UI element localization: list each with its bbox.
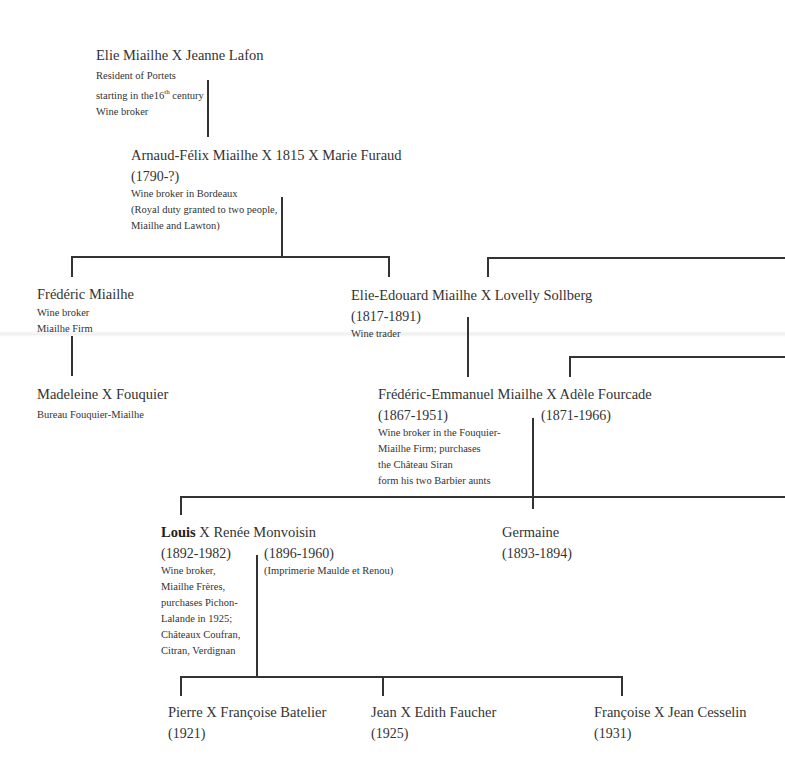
node-dates: (1931) [594,725,747,743]
node-elie-miailhe: Elie Miailhe X Jeanne Lafon Resident of … [96,46,264,120]
node-dates: (1817-1891) [351,308,592,326]
node-name: Pierre X Françoise Batelier [168,703,326,721]
connector-drop [382,676,384,696]
node-detail: purchases Pichon- [161,595,316,611]
connector-vertical [281,197,283,257]
spouse-renee-details: (1896-1960) (Imprimerie Maulde et Renou) [264,545,393,579]
connector-horizontal-offpage [569,356,785,358]
node-dates: (1896-1960) [264,545,393,563]
century-number: 16 [154,90,165,101]
connector-vertical [256,555,258,677]
node-name: Jean X Edith Faucher [371,703,496,721]
name-rest: X Renée Monvoisin [196,524,316,540]
node-detail: Wine broker [37,305,134,321]
connector-drop [180,676,182,696]
node-madeleine-fouquier: Madeleine X Fouquier Bureau Fouquier-Mia… [37,385,168,423]
node-frederic-miailhe: Frédéric Miailhe Wine broker Miailhe Fir… [37,285,134,337]
node-detail: the Château Siran [378,457,652,473]
node-detail: 16starting in the16th century [96,84,264,104]
node-dates: (1921) [168,725,326,743]
node-pierre: Pierre X Françoise Batelier (1921) [168,703,326,743]
node-name: Frédéric-Emmanuel Miailhe X Adèle Fourca… [378,385,652,403]
node-detail: Bureau Fouquier-Miailhe [37,407,168,423]
connector-vertical [71,336,73,376]
node-name: Frédéric Miailhe [37,285,134,303]
node-detail: (Royal duty granted to two people, [131,202,402,218]
node-detail: (Imprimerie Maulde et Renou) [264,563,393,579]
connector-drop [487,257,489,277]
connector-drop [388,256,390,277]
node-name: Elie-Edouard Miailhe X Lovelly Sollberg [351,286,592,304]
node-francoise: Françoise X Jean Cesselin (1931) [594,703,747,743]
node-detail: Châteaux Coufran, [161,627,316,643]
node-name: Louis X Renée Monvoisin [161,523,316,541]
node-detail: Miailhe Firm; purchases [378,441,652,457]
node-detail: Wine broker [96,104,264,120]
node-detail: Wine broker in the Fouquier- [378,425,652,441]
node-detail: form his two Barbier aunts [378,473,652,489]
spouse-dates-adele: (1871-1966) [541,407,611,425]
detail-text: century [170,90,204,101]
node-detail: Wine broker in Bordeaux [131,186,402,202]
connector-horizontal [180,676,623,678]
connector-vertical [207,80,209,137]
node-elie-edouard-miailhe: Elie-Edouard Miailhe X Lovelly Sollberg … [351,286,592,342]
node-detail: Miailhe and Lawton) [131,218,402,234]
node-name: Françoise X Jean Cesselin [594,703,747,721]
node-detail: Lalande in 1925; [161,611,316,627]
connector-drop [621,676,623,696]
node-dates: (1871-1966) [541,407,611,425]
node-jean: Jean X Edith Faucher (1925) [371,703,496,743]
node-name: Elie Miailhe X Jeanne Lafon [96,46,264,64]
node-detail: Miailhe Firm [37,321,134,337]
node-detail: Wine trader [351,326,592,342]
connector-horizontal-offpage [487,257,785,259]
node-name: Arnaud-Félix Miailhe X 1815 X Marie Fura… [131,146,402,164]
connector-drop [569,356,571,377]
node-dates: (1790-?) [131,168,402,186]
node-detail: Miailhe Frères, [161,579,316,595]
node-detail: Resident of Portets [96,68,264,84]
connector-drop [71,256,73,277]
node-name: Germaine [502,523,572,541]
name-bold: Louis [161,524,196,540]
connector-horizontal [71,256,390,258]
node-detail: Citran, Verdignan [161,643,316,659]
connector-vertical [467,317,469,377]
node-dates: (1893-1894) [502,545,572,563]
node-germaine: Germaine (1893-1894) [502,523,572,563]
node-name: Madeleine X Fouquier [37,385,168,403]
detail-text: starting in the [96,90,154,101]
connector-drop [180,496,182,515]
node-dates: (1925) [371,725,496,743]
node-arnaud-felix-miailhe: Arnaud-Félix Miailhe X 1815 X Marie Fura… [131,146,402,234]
connector-horizontal-offpage [180,496,785,498]
node-frederic-emmanuel-miailhe: Frédéric-Emmanuel Miailhe X Adèle Fourca… [378,385,652,489]
node-louis-miailhe: Louis X Renée Monvoisin (1892-1982) Wine… [161,523,316,659]
